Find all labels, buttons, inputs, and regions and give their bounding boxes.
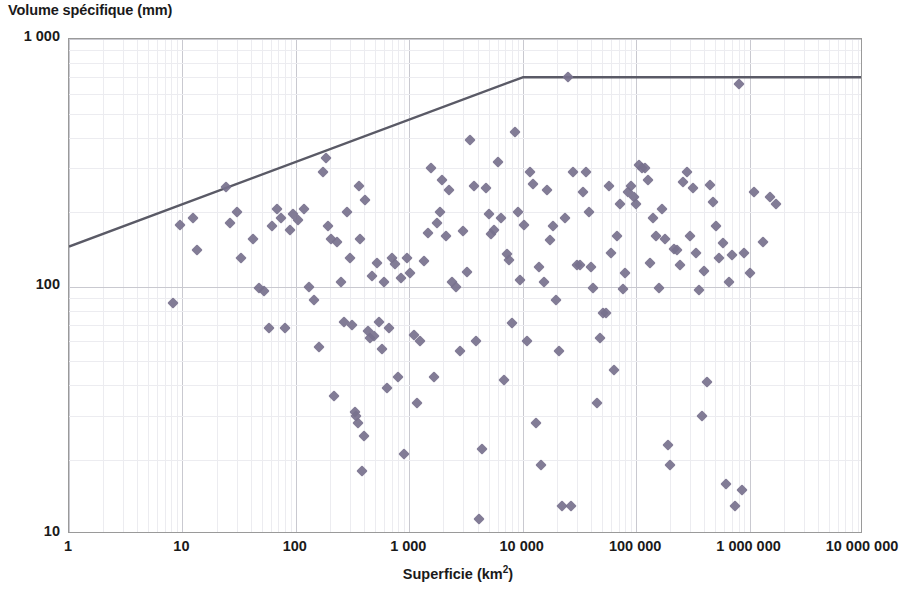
scatter-point (298, 204, 309, 215)
gridline-y-minor (69, 212, 861, 213)
x-tick-label: 1 000 (390, 538, 426, 554)
scatter-point (437, 174, 448, 185)
scatter-point (691, 247, 702, 258)
gridline-y-minor (69, 63, 861, 64)
scatter-point (711, 221, 722, 232)
scatter-point (498, 374, 509, 385)
scatter-point (293, 215, 304, 226)
scatter-point (224, 218, 235, 229)
x-tick-label: 10 000 (500, 538, 544, 554)
scatter-point (247, 234, 258, 245)
scatter-point (376, 343, 387, 354)
x-tick-label: 1 (64, 538, 72, 554)
scatter-point (444, 185, 455, 196)
gridline-y-minor (69, 341, 861, 342)
gridline-y-minor (69, 94, 861, 95)
scatter-point (392, 372, 403, 383)
envelope-polyline (69, 77, 862, 246)
scatter-point (550, 295, 561, 306)
scatter-point (717, 237, 728, 248)
chart-container: Volume spécifique (mm) Superficie (km2) … (0, 0, 916, 594)
scatter-point (565, 500, 576, 511)
gridline-y-major (69, 287, 861, 288)
scatter-point (583, 206, 594, 217)
scatter-point (512, 206, 523, 217)
scatter-point (654, 282, 665, 293)
gridline-y-minor (69, 50, 861, 51)
scatter-point (603, 180, 614, 191)
gridline-y-minor (69, 168, 861, 169)
x-tick-label: 10 000 000 (826, 538, 899, 554)
gridline-y-major (69, 39, 861, 40)
gridline-y-minor (69, 114, 861, 115)
scatter-point (344, 252, 355, 263)
scatter-point (231, 206, 242, 217)
scatter-point (696, 410, 707, 421)
scatter-point (591, 397, 602, 408)
scatter-point (577, 187, 588, 198)
scatter-point (542, 185, 553, 196)
scatter-point (726, 249, 737, 260)
scatter-point (533, 261, 544, 272)
scatter-point (174, 219, 185, 230)
scatter-point (562, 72, 573, 83)
y-tick-label: 1 000 (0, 28, 60, 44)
scatter-point (188, 212, 199, 223)
scatter-point (530, 418, 541, 429)
x-axis-title: Superficie (km2) (0, 564, 916, 582)
y-tick-label: 100 (0, 276, 60, 292)
scatter-point (440, 230, 451, 241)
scatter-point (431, 217, 442, 228)
scatter-point (192, 245, 203, 256)
scatter-point (303, 281, 314, 292)
scatter-point (733, 78, 744, 89)
gridline-y-minor (69, 325, 861, 326)
scatter-point (662, 439, 673, 450)
scatter-point (428, 372, 439, 383)
gridline-y-minor (69, 460, 861, 461)
scatter-point (309, 295, 320, 306)
scatter-point (473, 513, 484, 524)
scatter-point (588, 282, 599, 293)
gridline-y-minor (69, 361, 861, 362)
scatter-point (267, 221, 278, 232)
scatter-point (220, 181, 231, 192)
scatter-point (506, 318, 517, 329)
scatter-point (422, 227, 433, 238)
scatter-point (381, 382, 392, 393)
scatter-point (545, 234, 556, 245)
gridline-y-minor (69, 298, 861, 299)
scatter-point (360, 194, 371, 205)
scatter-point (647, 212, 658, 223)
scatter-point (356, 465, 367, 476)
scatter-point (744, 268, 755, 279)
scatter-point (614, 199, 625, 210)
scatter-point (554, 345, 565, 356)
scatter-point (322, 221, 333, 232)
scatter-point (699, 265, 710, 276)
scatter-point (701, 377, 712, 388)
scatter-point (605, 248, 616, 259)
scatter-point (425, 163, 436, 174)
scatter-point (678, 176, 689, 187)
scatter-point (585, 261, 596, 272)
scatter-point (642, 174, 653, 185)
scatter-point (665, 459, 676, 470)
scatter-point (371, 257, 382, 268)
scatter-point (398, 449, 409, 460)
scatter-point (757, 236, 768, 247)
scatter-point (471, 336, 482, 347)
scatter-point (458, 225, 469, 236)
x-tick-label: 100 (283, 538, 307, 554)
scatter-point (645, 258, 656, 269)
gridline-y-minor (69, 416, 861, 417)
scatter-point (492, 156, 503, 167)
x-axis-title-tail: ) (508, 566, 513, 582)
scatter-point (630, 199, 641, 210)
scatter-point (412, 397, 423, 408)
scatter-point (659, 234, 670, 245)
x-tick-label: 10 (173, 538, 189, 554)
scatter-point (685, 230, 696, 241)
scatter-point (536, 459, 547, 470)
gridline-y-minor (69, 385, 861, 386)
